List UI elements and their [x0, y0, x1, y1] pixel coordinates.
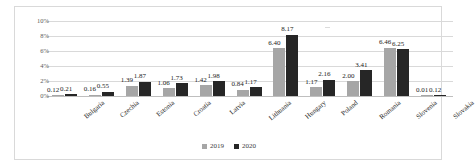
- legend-entry-2020[interactable]: 2020: [234, 143, 256, 150]
- bar-group: 2.003.41: [342, 21, 379, 96]
- bar-2020-bulgaria[interactable]: [65, 94, 77, 96]
- bar-group: 0.841.17: [232, 21, 269, 96]
- legend-swatch-icon: [234, 144, 239, 149]
- bar-2019-hungary[interactable]: [273, 48, 285, 96]
- x-axis-label-estonia: Estonia: [155, 99, 176, 119]
- bar-value-label: 1.17: [300, 79, 322, 86]
- bar-value-label: 0.12: [424, 87, 446, 94]
- chart-plot-frame: 10%8%6%4%2%0% 0.120.210.160.551.391.871.…: [14, 6, 442, 160]
- legend-entry-2019[interactable]: 2019: [202, 143, 224, 150]
- y-axis-tick-label: 10%: [29, 18, 49, 25]
- bar-value-label: 6.40: [263, 40, 285, 47]
- x-axis-label-bulgaria: Bulgaria: [82, 99, 106, 121]
- chart-legend: 20192020: [15, 143, 443, 150]
- x-axis-label-croatia: Croatia: [192, 99, 213, 118]
- x-axis-label-poland: Poland: [339, 99, 359, 118]
- bar-2019-bulgaria[interactable]: [52, 95, 64, 96]
- bar-value-label: 6.25: [387, 41, 409, 48]
- bar-2020-lithuania[interactable]: [250, 87, 262, 96]
- bar-2019-romania[interactable]: [347, 81, 359, 96]
- bar-group: 0.010.12: [416, 21, 453, 96]
- x-axis-label-slovenia: Slovenia: [414, 99, 438, 121]
- bar-2020-romania[interactable]: [360, 70, 372, 96]
- bars-layer: 0.120.210.160.551.391.871.061.731.421.98…: [47, 21, 453, 96]
- x-axis-label-slovakia: Slovakia: [451, 99, 475, 121]
- x-axis-label-lithuania: Lithuania: [267, 99, 293, 122]
- bar-value-label: 2.00: [337, 73, 359, 80]
- bar-value-label: 2.16: [313, 71, 335, 78]
- bar-value-label: 0.21: [55, 86, 77, 93]
- bar-group: 1.172.16: [305, 21, 342, 96]
- bar-2019-lithuania[interactable]: [237, 90, 249, 96]
- bar-2019-slovenia[interactable]: [384, 48, 396, 96]
- y-axis-tick-label: 8%: [29, 33, 49, 40]
- x-axis-category-labels: BulgariaCzechiaEstoniaCroatiaLatviaLithu…: [47, 99, 453, 141]
- bar-2020-croatia[interactable]: [176, 83, 188, 96]
- x-axis-label-latvia: Latvia: [228, 99, 247, 117]
- bar-2019-czechia[interactable]: [89, 95, 101, 96]
- bar-2019-estonia[interactable]: [126, 86, 138, 96]
- bar-group: 0.120.21: [47, 21, 84, 96]
- bar-2020-czechia[interactable]: [102, 92, 114, 96]
- bar-2019-latvia[interactable]: [200, 85, 212, 96]
- y-axis-tick-label: 6%: [29, 48, 49, 55]
- bar-2020-hungary[interactable]: [286, 35, 298, 96]
- bar-group: 1.061.73: [158, 21, 195, 96]
- x-axis-label-czechia: Czechia: [119, 99, 141, 120]
- y-axis-tick-label: 4%: [29, 63, 49, 70]
- bar-2019-croatia[interactable]: [163, 88, 175, 96]
- bar-2020-poland[interactable]: [323, 80, 335, 96]
- x-axis-label-hungary: Hungary: [304, 99, 328, 121]
- bar-group: 0.160.55: [84, 21, 121, 96]
- legend-swatch-icon: [202, 144, 207, 149]
- gridline-0: [47, 96, 453, 97]
- bar-2020-slovakia[interactable]: [434, 95, 446, 96]
- y-axis: 10%8%6%4%2%0%: [29, 21, 49, 96]
- bar-value-label: 1.87: [129, 73, 151, 80]
- y-axis-tick-label: 2%: [29, 78, 49, 85]
- legend-label: 2020: [242, 143, 256, 150]
- legend-label: 2019: [210, 143, 224, 150]
- bar-2020-estonia[interactable]: [139, 82, 151, 96]
- bar-value-label: 1.17: [240, 79, 262, 86]
- x-axis-label-romania: Romania: [378, 99, 403, 121]
- bar-2019-slovakia[interactable]: [421, 95, 433, 96]
- bar-value-label: 0.55: [92, 83, 114, 90]
- bar-2019-poland[interactable]: [310, 87, 322, 96]
- bar-group: 6.466.25: [379, 21, 416, 96]
- bar-value-label: 8.17: [276, 26, 298, 33]
- bar-value-label: 3.41: [350, 62, 372, 69]
- scan-artifact-mark: [325, 27, 330, 28]
- y-axis-tick-label: 0%: [29, 93, 49, 100]
- bar-2020-latvia[interactable]: [213, 81, 225, 96]
- bar-value-label: 1.73: [166, 75, 188, 82]
- bar-value-label: 1.98: [203, 73, 225, 80]
- bar-2020-slovenia[interactable]: [397, 49, 409, 96]
